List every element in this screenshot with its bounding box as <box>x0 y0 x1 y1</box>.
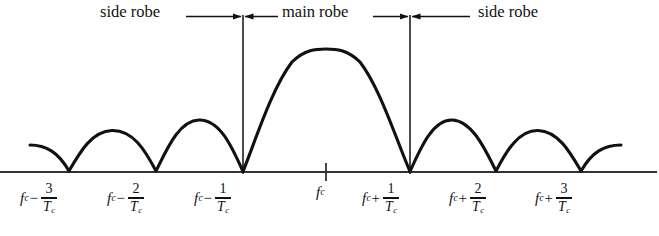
carrier-subscript: c <box>198 194 202 203</box>
axis-tick-label-plus-3: fc + 3 Tc <box>535 182 572 215</box>
fraction: 2 Tc <box>470 182 486 215</box>
tick-sign: − <box>117 191 125 206</box>
fraction-denominator: Tc <box>383 200 399 216</box>
carrier-subscript: c <box>453 194 457 203</box>
tick-sign: − <box>204 191 212 206</box>
fraction-numerator: 3 <box>559 182 570 196</box>
tick-sign: + <box>372 191 380 206</box>
axis-tick-label-plus-2: fc + 2 Tc <box>449 182 486 215</box>
carrier-subscript: c <box>366 194 370 203</box>
fraction-numerator: 1 <box>386 182 397 196</box>
axis-tick-label-carrier: fc <box>316 185 325 200</box>
fraction-numerator: 3 <box>44 182 55 196</box>
fraction-denominator: Tc <box>556 200 572 216</box>
main-lobe-label: main robe <box>282 4 348 21</box>
fraction-denominator: Tc <box>128 200 144 216</box>
axis-tick-label-plus-1: fc + 1 Tc <box>362 182 399 215</box>
fraction: 3 Tc <box>556 182 572 215</box>
fraction-numerator: 2 <box>473 182 484 196</box>
fraction-denominator: Tc <box>470 200 486 216</box>
fraction: 3 Tc <box>41 182 57 215</box>
fraction-numerator: 2 <box>131 182 142 196</box>
fraction-numerator: 1 <box>218 182 229 196</box>
carrier-subscript: c <box>111 194 115 203</box>
spectrum-figure: side robe main robe side robe fc − 3 Tc … <box>0 0 659 236</box>
side-lobe-right-label: side robe <box>478 4 538 21</box>
carrier-subscript: c <box>539 194 543 203</box>
side-lobe-left-label: side robe <box>100 4 160 21</box>
axis-tick-label-minus-1: fc − 1 Tc <box>194 182 231 215</box>
tick-sign: + <box>545 191 553 206</box>
axis-tick-label-minus-3: fc − 3 Tc <box>20 182 57 215</box>
fraction: 2 Tc <box>128 182 144 215</box>
axis-tick-label-minus-2: fc − 2 Tc <box>107 182 144 215</box>
fraction: 1 Tc <box>215 182 231 215</box>
tick-sign: − <box>30 191 38 206</box>
tick-sign: + <box>459 191 467 206</box>
psd-curve <box>30 49 621 172</box>
fraction: 1 Tc <box>383 182 399 215</box>
fraction-denominator: Tc <box>41 200 57 216</box>
carrier-subscript: c <box>24 194 28 203</box>
fraction-denominator: Tc <box>215 200 231 216</box>
carrier-subscript: c <box>320 188 324 197</box>
